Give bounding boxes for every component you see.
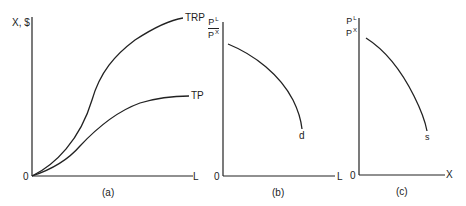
panel-c-x-axis-label: X bbox=[446, 170, 453, 180]
panel-a-caption: (a) bbox=[102, 188, 114, 198]
price-labor-term: PL bbox=[208, 18, 219, 29]
price-output-term: PX bbox=[346, 27, 357, 38]
panel-a-origin-label: 0 bbox=[23, 172, 29, 182]
panel-a-y-axis-label: X, $ bbox=[12, 18, 30, 28]
trp-curve bbox=[32, 18, 183, 176]
panel-b-origin-label: 0 bbox=[214, 172, 220, 182]
d-curve bbox=[228, 44, 302, 129]
tp-label: TP bbox=[191, 91, 204, 101]
panel-a-x-axis-label: L bbox=[193, 172, 199, 182]
price-output-term: PX bbox=[208, 29, 219, 40]
panel-b-y-axis-label: PL PX bbox=[208, 18, 219, 40]
panel-c-caption: (c) bbox=[396, 187, 408, 197]
panel-c-y-axis-label: PL PX bbox=[346, 17, 357, 38]
d-label: d bbox=[299, 131, 305, 141]
tp-curve bbox=[32, 96, 189, 176]
diagram-canvas bbox=[0, 0, 466, 206]
trp-label: TRP bbox=[185, 13, 205, 23]
panel-b-x-axis-label: L bbox=[337, 172, 343, 182]
s-curve bbox=[366, 38, 427, 131]
panel-b-caption: (b) bbox=[272, 188, 284, 198]
price-labor-term: PL bbox=[346, 17, 357, 27]
panel-b-axes bbox=[223, 22, 335, 176]
s-label: s bbox=[425, 133, 430, 142]
panel-c-origin-label: 0 bbox=[350, 171, 356, 181]
